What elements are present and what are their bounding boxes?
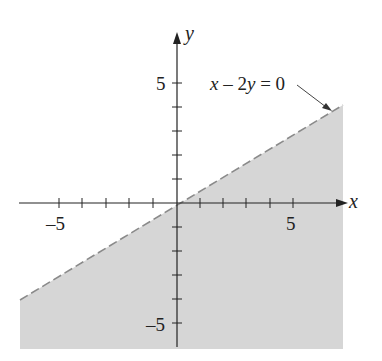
eq-y: y (245, 73, 256, 94)
annotation-arrowhead-icon (322, 103, 332, 111)
y-axis-label: y (183, 22, 194, 45)
equation-label: x – 2y = 0 (209, 73, 285, 94)
x-axis-label: x (348, 190, 358, 212)
x-tick-label-5: 5 (286, 213, 296, 234)
x-tick-label-neg5: –5 (45, 213, 65, 234)
y-tick-label-neg5: –5 (145, 314, 165, 335)
inequality-graph: –5 5 5 –5 y x x – 2y = 0 (0, 0, 382, 361)
y-tick-label-5: 5 (156, 73, 166, 94)
y-axis-arrow-icon (173, 32, 181, 44)
eq-minus-2: – 2 (218, 73, 247, 94)
annotation-arrow (297, 85, 326, 107)
eq-equals-0: = 0 (255, 73, 285, 94)
